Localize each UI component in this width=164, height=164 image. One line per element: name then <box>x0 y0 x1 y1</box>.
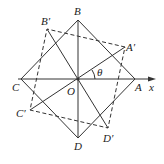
label-C: C <box>12 81 20 93</box>
theta-arc <box>92 70 95 79</box>
label-C-prime: C′ <box>16 107 26 119</box>
label-D-prime: D′ <box>102 132 114 144</box>
label-D: D <box>73 140 82 152</box>
label-O: O <box>67 85 75 97</box>
label-B: B <box>74 5 81 17</box>
label-x: x <box>148 81 154 93</box>
label-A: A <box>134 81 142 93</box>
label-theta: θ <box>97 66 103 78</box>
label-B-prime: B′ <box>41 15 51 27</box>
rotation-diagram: B B′ A′ θ C O A x C′ D′ D <box>0 0 164 164</box>
origin-point <box>76 77 79 80</box>
label-A-prime: A′ <box>125 41 136 53</box>
